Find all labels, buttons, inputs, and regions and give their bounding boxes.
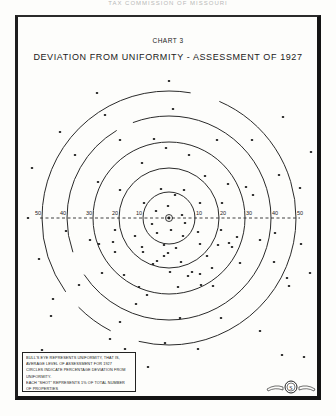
shot-point — [114, 229, 117, 231]
shot-point — [52, 298, 55, 300]
shot-point — [212, 285, 215, 287]
shot-point — [310, 151, 313, 153]
shot-point — [184, 222, 187, 224]
shot-point — [78, 284, 81, 286]
shot-point — [199, 273, 202, 275]
shot-point — [160, 188, 163, 190]
shot-point — [183, 189, 186, 191]
shot-point — [167, 252, 170, 254]
tick-label: 10 — [196, 210, 202, 216]
shot-point — [221, 202, 224, 204]
shot-point — [98, 243, 101, 245]
shot-point — [274, 232, 277, 234]
shot-point — [119, 189, 122, 191]
shot-point — [112, 241, 115, 243]
shot-point — [187, 275, 190, 277]
legend-line: CIRCLES INDICATE PERCENTAGE DEVIATION FR… — [26, 367, 132, 373]
shot-point — [217, 244, 220, 246]
shot-point — [167, 205, 170, 207]
shot-point — [281, 354, 284, 356]
shot-point — [245, 186, 248, 188]
tick-label: 40 — [272, 210, 278, 216]
shot-point — [143, 202, 146, 204]
shot-point — [96, 92, 99, 94]
shot-point — [146, 294, 149, 296]
shot-point — [180, 261, 183, 263]
shot-point — [204, 175, 207, 177]
shot-point — [97, 181, 100, 183]
shot-point — [155, 210, 158, 212]
shot-point — [174, 194, 177, 196]
shot-point — [252, 194, 255, 196]
shot-point — [163, 255, 166, 257]
shot-point — [309, 272, 312, 274]
shot-point — [89, 239, 92, 241]
shot-point — [101, 272, 104, 274]
tick-label: 30 — [246, 210, 252, 216]
shot-point — [141, 162, 144, 164]
shot-point — [227, 183, 230, 185]
shot-point — [259, 239, 262, 241]
shot-point — [200, 284, 203, 286]
shot-point — [216, 139, 219, 141]
shot-point — [59, 131, 62, 133]
shot-point — [303, 356, 306, 358]
shot-point — [231, 246, 234, 248]
shot-point — [163, 244, 166, 246]
shot-point — [211, 267, 214, 269]
shot-point — [220, 229, 223, 231]
shot-point — [123, 274, 126, 276]
shot-point — [38, 258, 41, 260]
shot-point — [138, 286, 141, 288]
shot-point — [65, 230, 68, 232]
shot-point — [300, 243, 303, 245]
shot-point — [197, 348, 200, 350]
seal-emblem-icon: S — [265, 380, 317, 394]
tick-label: 50 — [297, 210, 303, 216]
shot-point — [239, 262, 242, 264]
shot-point — [141, 246, 144, 248]
shot-point — [114, 251, 117, 253]
shot-point — [119, 139, 122, 141]
shot-point — [156, 232, 159, 234]
shot-point — [168, 80, 171, 82]
shot-point — [188, 154, 191, 156]
shot-point — [177, 286, 180, 288]
shot-point — [165, 147, 168, 149]
tick-label: 50 — [35, 210, 41, 216]
shot-point — [179, 317, 182, 319]
shot-point — [191, 271, 194, 273]
shot-point — [182, 235, 185, 237]
shot-point — [199, 243, 202, 245]
shot-point — [181, 214, 184, 216]
shot-point — [175, 247, 178, 249]
shot-point — [220, 317, 223, 319]
shot-point — [259, 330, 262, 332]
tick-label: 10 — [136, 210, 142, 216]
shot-point — [172, 108, 175, 110]
shot-point — [273, 261, 276, 263]
shot-point — [169, 271, 172, 273]
legend-line: OF PROPERTIES — [26, 386, 132, 392]
tick-label: 40 — [60, 210, 66, 216]
shot-point — [251, 139, 254, 141]
tick-label: 30 — [86, 210, 92, 216]
shot-point — [152, 263, 155, 265]
shot-point — [27, 217, 30, 219]
shot-point — [124, 348, 127, 350]
shot-point — [119, 321, 122, 323]
tick-label: 20 — [112, 210, 118, 216]
shot-point — [288, 285, 291, 287]
shot-point — [151, 223, 154, 225]
shot-point — [228, 242, 231, 244]
tick-label: 20 — [220, 210, 226, 216]
shot-point — [104, 114, 107, 116]
shot-point — [134, 235, 137, 237]
shot-point — [109, 338, 112, 340]
shot-point — [164, 342, 167, 344]
shot-point — [170, 229, 173, 231]
shot-point — [153, 138, 156, 140]
shot-point — [282, 116, 285, 118]
shot-point — [31, 167, 34, 169]
shot-point — [50, 315, 53, 317]
